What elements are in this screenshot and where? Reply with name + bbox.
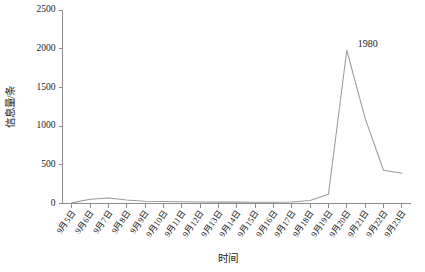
y-tick-label: 2500 — [37, 4, 56, 14]
y-axis-ticks: 05001000150020002500 — [37, 4, 63, 208]
peak-value-label: 1980 — [358, 38, 378, 49]
y-axis-title: 信息量/条 — [4, 85, 16, 129]
y-tick-label: 1000 — [37, 120, 56, 130]
x-axis-title: 时间 — [218, 252, 238, 264]
data-series-line — [72, 50, 402, 203]
y-tick-label: 2000 — [37, 43, 56, 53]
y-tick-label: 500 — [41, 159, 56, 169]
chart-canvas: 05001000150020002500 信息量/条 9月5日9月6日9月7日9… — [0, 0, 425, 272]
y-axis-group: 05001000150020002500 信息量/条 — [4, 4, 63, 208]
y-tick-label: 1500 — [37, 82, 56, 92]
series-group — [72, 50, 402, 203]
data-annotations: 1980 — [358, 38, 378, 49]
x-axis-group: 9月5日9月6日9月7日9月8日9月9日9月10日9月11日9月12日9月13日… — [54, 204, 411, 265]
x-axis-ticks — [72, 204, 402, 208]
line-chart-figure: 05001000150020002500 信息量/条 9月5日9月6日9月7日9… — [0, 0, 425, 272]
x-axis-tick-labels: 9月5日9月6日9月7日9月8日9月9日9月10日9月11日9月12日9月13日… — [54, 208, 408, 239]
y-tick-label: 0 — [51, 198, 56, 208]
